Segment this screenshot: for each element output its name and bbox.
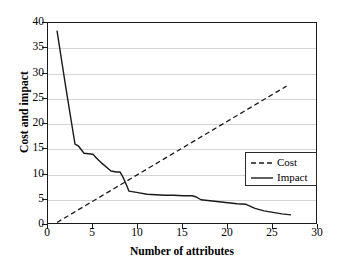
y-tick-label: 10 (18, 168, 44, 179)
legend-item-cost: Cost (246, 155, 316, 170)
chart-container: Cost and impact 0510152025303540 0510152… (0, 0, 340, 271)
y-axis-title: Cost and impact (18, 42, 30, 182)
legend: Cost Impact (245, 152, 317, 186)
plot-area (47, 22, 317, 224)
series-lines (48, 23, 318, 225)
x-tick-label: 5 (79, 227, 105, 238)
y-tick-label: 35 (18, 41, 44, 52)
series-line-impact (57, 31, 291, 215)
x-tick-label: 25 (259, 227, 285, 238)
legend-label-impact: Impact (274, 172, 308, 183)
x-tick-label: 10 (124, 227, 150, 238)
x-tick-label: 20 (214, 227, 240, 238)
x-tick-label: 15 (169, 227, 195, 238)
x-axis-title: Number of attributes (47, 245, 317, 257)
y-tick-label: 40 (18, 16, 44, 27)
y-tick-label: 25 (18, 92, 44, 103)
dashed-line-icon (250, 158, 274, 168)
y-tick-label: 30 (18, 67, 44, 78)
legend-item-impact: Impact (246, 170, 316, 185)
x-tick-label: 0 (34, 227, 60, 238)
y-tick-label: 5 (18, 193, 44, 204)
legend-label-cost: Cost (274, 157, 297, 168)
solid-line-icon (250, 173, 274, 183)
y-tick-label: 20 (18, 117, 44, 128)
y-tick-label: 15 (18, 142, 44, 153)
x-tick-label: 30 (304, 227, 330, 238)
